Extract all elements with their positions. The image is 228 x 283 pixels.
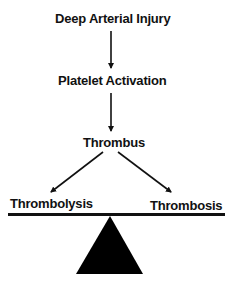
node-deep-arterial-injury: Deep Arterial Injury (55, 12, 170, 26)
node-thrombus: Thrombus (83, 136, 145, 150)
arrow-thrombus-to-thrombosis (118, 152, 171, 192)
node-platelet-activation: Platelet Activation (58, 74, 166, 88)
node-thrombosis: Thrombosis (150, 199, 222, 213)
balance-beam (8, 213, 225, 216)
fulcrum-triangle (76, 216, 143, 274)
node-thrombolysis: Thrombolysis (10, 197, 93, 211)
arrow-thrombus-to-thrombolysis (51, 152, 103, 192)
